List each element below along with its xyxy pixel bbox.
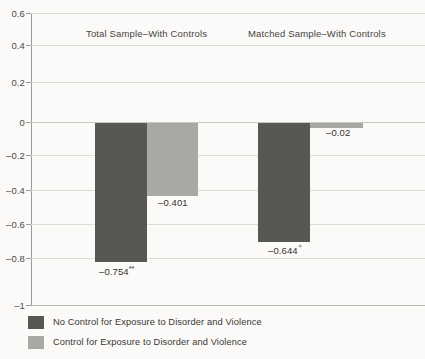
group-title-matched-sample: Matched Sample–With Controls <box>248 28 386 39</box>
value-label-total-no-control-sig: ** <box>129 264 135 273</box>
y-tick-label-7: –0.8 <box>1 253 25 264</box>
legend-swatch-no-control <box>28 316 44 329</box>
bar-matched-sample-no-control <box>258 123 310 242</box>
legend-item-no-control: No Control for Exposure to Disorder and … <box>28 315 418 329</box>
value-label-matched-no-control-text: –0.644 <box>268 245 298 256</box>
y-tick-label-8: –1 <box>1 300 25 311</box>
gridline-0.6 <box>31 13 425 14</box>
y-axis-labels: 0.6 0.4 0.2 0 –0.2 –0.4 –0.6 –0.8 –1 <box>0 0 25 359</box>
gridline--0.6 <box>31 224 425 225</box>
group-title-total-sample: Total Sample–With Controls <box>86 28 207 39</box>
y-tick-label-5: –0.4 <box>1 185 25 196</box>
y-tick-label-6: –0.6 <box>1 219 25 230</box>
gridline-zero <box>31 122 425 123</box>
value-label-total-control: –0.401 <box>158 197 188 208</box>
gridline--0.8 <box>31 258 425 259</box>
y-tick-label-1: 0.4 <box>1 40 25 51</box>
gridline--0.4 <box>31 190 425 191</box>
value-label-total-no-control: –0.754** <box>99 264 135 277</box>
value-label-total-no-control-text: –0.754 <box>99 266 129 277</box>
y-tick-label-3: 0 <box>1 117 25 128</box>
gridline-0.2 <box>31 82 425 83</box>
bar-total-sample-control <box>147 123 198 196</box>
value-label-matched-control: –0.02 <box>326 127 350 138</box>
gridline-0.4 <box>31 45 425 46</box>
legend-swatch-control <box>28 336 44 349</box>
legend-label-no-control: No Control for Exposure to Disorder and … <box>53 317 262 327</box>
bar-chart: 0.6 0.4 0.2 0 –0.2 –0.4 –0.6 –0.8 –1 <box>0 0 425 359</box>
legend-item-control: Control for Exposure to Disorder and Vio… <box>28 335 418 349</box>
chart-legend: No Control for Exposure to Disorder and … <box>28 315 418 355</box>
value-label-matched-no-control-sig: ⁺ <box>298 243 302 252</box>
y-tick-label-0: 0.6 <box>1 8 25 19</box>
value-label-matched-no-control: –0.644⁺ <box>268 243 302 256</box>
y-tick-label-2: 0.2 <box>1 77 25 88</box>
y-tick-label-4: –0.2 <box>1 150 25 161</box>
legend-label-control: Control for Exposure to Disorder and Vio… <box>53 337 247 347</box>
gridline--1-baseline <box>31 305 425 306</box>
plot-area <box>31 13 425 305</box>
gridline--0.2 <box>31 155 425 156</box>
bar-total-sample-no-control <box>95 123 147 262</box>
